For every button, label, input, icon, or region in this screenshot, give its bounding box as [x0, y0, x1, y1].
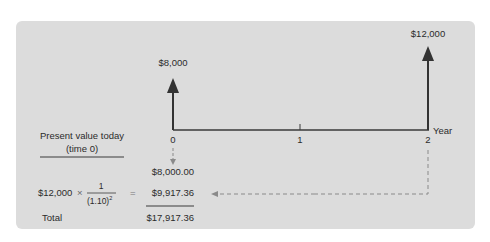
total-label: Total [42, 213, 62, 223]
heading-line1: Present value today [40, 131, 124, 141]
arrowhead-up-icon [167, 78, 179, 93]
fraction-exponent: 2 [109, 195, 112, 201]
arrowhead-down-icon [170, 159, 176, 165]
arrowhead-up-icon [422, 46, 434, 61]
arrowhead-left-icon [211, 191, 218, 197]
cash-flow-label-year0: $8,000 [158, 58, 187, 68]
axis-unit-label: Year [433, 126, 452, 136]
fraction-numerator: 1 [99, 182, 104, 191]
tick-label-0: 0 [170, 135, 175, 145]
dashed-connector-year2 [315, 150, 428, 194]
total-value: $17,917.36 [146, 213, 194, 223]
tick-label-1: 1 [297, 135, 302, 145]
fraction-denominator-base: (1.10) [87, 196, 109, 206]
heading-line2: (time 0) [66, 144, 98, 154]
fraction-denominator: (1.10)2 [87, 196, 112, 205]
pv-year0-value: $8,000.00 [152, 167, 194, 177]
tick-label-2: 2 [425, 135, 430, 145]
formula-amount: $12,000 [38, 188, 72, 198]
pv-year2-value: $9,917.36 [152, 188, 194, 198]
equals-sign: = [130, 188, 136, 198]
formula-times: × [77, 188, 83, 198]
cash-flow-label-year2: $12,000 [411, 29, 445, 39]
